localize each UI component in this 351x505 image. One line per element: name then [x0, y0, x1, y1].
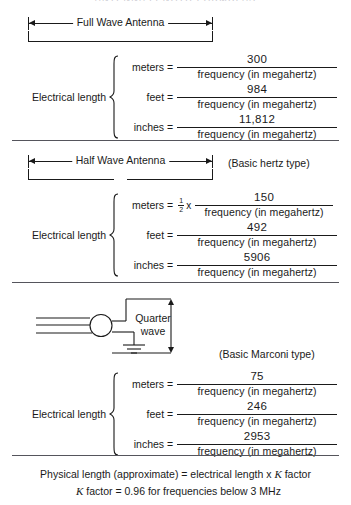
k-factor-note: K factor = 0.96 for frequencies below 3 … [0, 483, 351, 500]
dipole-element-right [127, 179, 213, 180]
numerator: 75 [250, 371, 263, 384]
arrow-up-icon [168, 299, 174, 305]
electrical-length-label: Electrical length [32, 408, 109, 420]
formula-row: meters = 1 2 x 150 frequency (in megaher… [121, 190, 337, 220]
numerator: 246 [247, 401, 267, 414]
fraction: 2953 frequency (in megahertz) [177, 431, 337, 457]
denominator: frequency (in megahertz) [205, 206, 324, 218]
fraction: 300 frequency (in megahertz) [177, 54, 337, 80]
half-wave-antenna-label: Half Wave Antenna [72, 153, 170, 168]
formula-rows: meters = 300 frequency (in megahertz) fe… [121, 52, 337, 142]
unit-label: feet = [121, 229, 177, 241]
arrow-left-icon [29, 20, 35, 26]
unit-label: inches = [121, 438, 177, 450]
formula-rows: meters = 75 frequency (in megahertz) fee… [121, 369, 337, 459]
half-wave-dimension-bracket: Half Wave Antenna [28, 154, 213, 180]
formula-row: feet = 246 frequency (in megahertz) [121, 399, 337, 429]
antenna-formula-diagram: ANTENNA LENGTH FORMULAS Full Wave Antenn… [0, 0, 351, 505]
multiplication-symbol: x [186, 200, 195, 211]
formula-row: meters = 300 frequency (in megahertz) [121, 52, 337, 82]
full-wave-formula-group: Electrical length meters = 300 frequency… [32, 52, 337, 142]
unit-label: meters = [121, 61, 177, 73]
denominator: frequency (in megahertz) [198, 68, 317, 80]
denominator: frequency (in megahertz) [198, 128, 317, 140]
fraction: 492 frequency (in megahertz) [177, 222, 337, 248]
formula-rows: meters = 1 2 x 150 frequency (in megaher… [121, 190, 337, 280]
denominator: frequency (in megahertz) [198, 98, 317, 110]
electrical-length-label: Electrical length [32, 229, 109, 241]
dipole-element-left [28, 179, 114, 180]
unit-label: feet = [121, 408, 177, 420]
dimension-cap-right [212, 155, 213, 168]
fraction: 75 frequency (in megahertz) [177, 371, 337, 397]
fraction: 984 frequency (in megahertz) [177, 84, 337, 110]
numerator: 984 [247, 84, 267, 97]
arrow-right-icon [206, 20, 212, 26]
formula-row: meters = 75 frequency (in megahertz) [121, 369, 337, 399]
formula-row: inches = 11,812 frequency (in megahertz) [121, 112, 337, 142]
electrical-length-label: Electrical length [32, 91, 109, 103]
antenna-element-line [28, 41, 213, 42]
unit-label: inches = [121, 121, 177, 133]
curly-brace-icon [109, 193, 119, 277]
section-divider [12, 282, 339, 283]
quarter-wave-line2: wave [141, 325, 166, 337]
fraction: 150 frequency (in megahertz) [195, 192, 333, 218]
basic-hertz-type-note: (Basic hertz type) [228, 157, 310, 169]
numerator: 492 [247, 222, 267, 235]
k-factor-symbol: K [274, 468, 281, 480]
dimension-arrow-row: Half Wave Antenna [28, 154, 213, 169]
extension-row [28, 169, 213, 180]
fraction: 5906 frequency (in megahertz) [177, 252, 337, 278]
arrow-down-icon [168, 347, 174, 353]
numerator: 11,812 [239, 114, 275, 127]
page-title: ANTENNA LENGTH FORMULAS [0, 0, 351, 1]
half-numerator: 1 [179, 197, 183, 204]
fraction: 246 frequency (in megahertz) [177, 401, 337, 427]
curly-brace-icon [109, 55, 119, 139]
footer-notes: Physical length (approximate) = electric… [0, 466, 351, 500]
denominator: frequency (in megahertz) [198, 236, 317, 248]
dimension-cap-right [212, 17, 213, 30]
physical-length-formula: Physical length (approximate) = electric… [0, 466, 351, 483]
fraction: 11,812 frequency (in megahertz) [177, 114, 337, 140]
numerator: 2953 [244, 431, 271, 444]
quarter-wave-line1: Quarter [135, 312, 171, 324]
k-factor-text: factor = 0.96 for frequencies below 3 MH… [83, 485, 281, 497]
arrow-right-icon [206, 158, 212, 164]
formula-row: feet = 492 frequency (in megahertz) [121, 220, 337, 250]
unit-label: inches = [121, 259, 177, 271]
half-wave-formula-group: Electrical length meters = 1 2 x 150 fre… [32, 190, 337, 280]
unit-label: meters = [121, 199, 177, 211]
denominator: frequency (in megahertz) [198, 415, 317, 427]
quarter-wave-formula-group: Electrical length meters = 75 frequency … [32, 369, 337, 459]
formula-row: feet = 984 frequency (in megahertz) [121, 82, 337, 112]
physical-length-text-a: Physical length (approximate) = electric… [40, 468, 274, 480]
physical-length-text-b: factor [282, 468, 311, 480]
formula-row: inches = 5906 frequency (in megahertz) [121, 250, 337, 280]
arrow-left-icon [29, 158, 35, 164]
full-wave-dimension-bracket: Full Wave Antenna [28, 16, 213, 42]
denominator: frequency (in megahertz) [198, 266, 317, 278]
full-wave-antenna-label: Full Wave Antenna [73, 15, 169, 30]
numerator: 300 [247, 54, 267, 67]
dimension-arrow-row: Full Wave Antenna [28, 16, 213, 31]
section-divider [12, 455, 339, 456]
extension-row [28, 31, 213, 42]
section-divider [12, 140, 339, 141]
unit-label: feet = [121, 91, 177, 103]
numerator: 5906 [244, 252, 271, 265]
curly-brace-icon [109, 372, 119, 456]
denominator: frequency (in megahertz) [198, 385, 317, 397]
numerator: 150 [254, 192, 274, 205]
half-denominator: 2 [179, 206, 183, 213]
one-half-fraction: 1 2 [178, 197, 184, 214]
unit-label: meters = [121, 378, 177, 390]
quarter-wave-dimension-label: Quarter wave [131, 312, 175, 338]
basic-marconi-type-note: (Basic Marconi type) [219, 348, 315, 360]
